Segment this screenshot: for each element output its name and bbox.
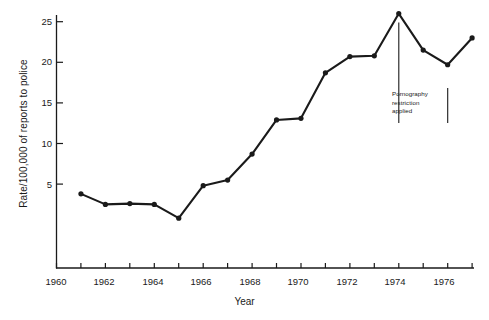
data-point-1967 bbox=[225, 177, 230, 182]
data-point-1972 bbox=[347, 54, 352, 59]
data-point-1969 bbox=[274, 117, 279, 122]
data-line bbox=[81, 14, 472, 219]
data-markers bbox=[78, 11, 474, 221]
data-point-1965 bbox=[176, 216, 181, 221]
data-point-1977 bbox=[470, 35, 475, 40]
y-axis-ticks bbox=[57, 22, 63, 184]
chart-figure: Rate/100,000 of reports to police Year 2… bbox=[0, 0, 489, 320]
data-point-1962 bbox=[103, 202, 108, 207]
x-axis-ticks bbox=[57, 263, 473, 268]
data-point-1974 bbox=[396, 11, 401, 16]
annotation-marker-lines bbox=[399, 23, 448, 124]
data-point-1966 bbox=[201, 183, 206, 188]
data-point-1963 bbox=[127, 201, 132, 206]
chart-svg bbox=[0, 0, 489, 320]
data-point-1976 bbox=[445, 62, 450, 67]
data-point-1968 bbox=[249, 151, 254, 156]
data-point-1973 bbox=[372, 53, 377, 58]
data-point-1970 bbox=[298, 116, 303, 121]
data-point-1961 bbox=[78, 191, 83, 196]
data-point-1964 bbox=[152, 202, 157, 207]
data-point-1971 bbox=[323, 70, 328, 75]
data-point-1975 bbox=[421, 48, 426, 53]
axis-lines bbox=[56, 15, 474, 269]
